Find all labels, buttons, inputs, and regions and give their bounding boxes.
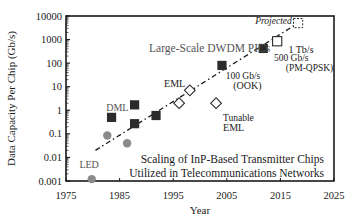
annotation-label: LED — [79, 159, 98, 170]
y-tick-label: 0.1 — [49, 128, 62, 139]
y-axis-ticks: 0.0010.010.1110100100010000 — [36, 11, 70, 187]
x-tick-label: 2025 — [324, 190, 345, 201]
circle-marker — [88, 175, 96, 183]
annotations: Large-Scale DWDM PICsDMLEMLTunableEML100… — [79, 16, 333, 170]
annotation-label: Projected — [254, 16, 292, 26]
open-diamond-marker — [211, 98, 222, 109]
y-tick-label: 100 — [46, 58, 62, 69]
y-tick-label: 10 — [52, 81, 63, 92]
filled-square-marker — [130, 119, 139, 128]
open-diamond-marker — [174, 98, 185, 109]
chart-title-line-2: Utilized in Telecommunications Networks — [129, 167, 324, 179]
chart-title-line-1: Scaling of InP-Based Transmitter Chips — [141, 153, 325, 166]
y-axis-label: Data Capacity Per Chip (Gb/s) — [5, 31, 18, 166]
filled-square-marker — [151, 111, 160, 120]
filled-square-marker — [107, 113, 116, 122]
x-tick-label: 2005 — [216, 190, 237, 201]
x-tick-label: 2015 — [270, 190, 291, 201]
annotation-label: (PM-QPSK) — [286, 63, 334, 74]
annotation-label: Large-Scale DWDM PICs — [149, 42, 271, 55]
annotation-label: 500 Gb/s — [274, 53, 309, 63]
y-tick-label: 0.01 — [44, 152, 62, 163]
annotation-label: (OOK) — [233, 80, 261, 92]
annotation-label: DML — [106, 102, 128, 113]
circle-marker — [103, 131, 111, 139]
x-tick-label: 1995 — [163, 190, 184, 201]
annotation-label: EML — [164, 78, 185, 89]
circle-marker — [123, 139, 131, 147]
y-tick-label: 1 — [57, 105, 62, 116]
annotation-label: 1 Tb/s — [288, 44, 313, 55]
x-tick-label: 1985 — [109, 190, 130, 201]
open-diamond-marker — [184, 85, 195, 96]
filled-square-marker — [217, 61, 226, 70]
filled-square-marker — [130, 100, 139, 109]
x-axis-label: Year — [190, 204, 211, 216]
capacity-scaling-chart: 0.0010.010.1110100100010000 197519851995… — [0, 0, 349, 221]
x-tick-label: 1975 — [56, 190, 77, 201]
y-tick-label: 1000 — [41, 34, 62, 45]
projected-square-marker — [293, 18, 302, 27]
y-tick-label: 0.001 — [38, 176, 62, 187]
y-tick-label: 10000 — [36, 11, 62, 22]
open-square-marker — [273, 37, 282, 46]
annotation-label: EML — [223, 122, 244, 133]
